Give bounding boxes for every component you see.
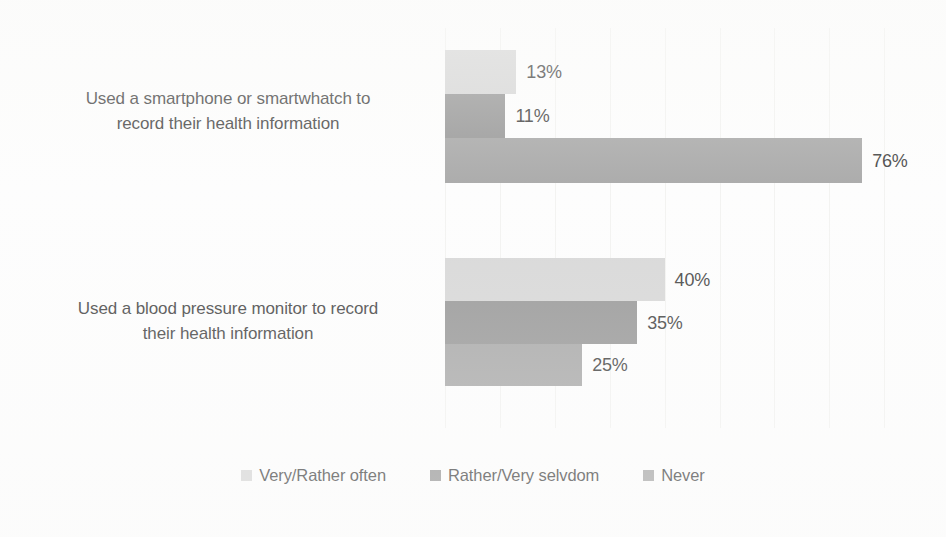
- legend-item[interactable]: Never: [643, 466, 705, 484]
- chart-legend: Very/Rather oftenRather/Very selvdomNeve…: [0, 466, 946, 484]
- gridline: [774, 28, 775, 428]
- category-label-line: record their health information: [38, 111, 418, 136]
- bar-segment: [445, 94, 505, 138]
- bar-segment: [445, 301, 637, 344]
- gridline: [829, 28, 830, 428]
- category-label-line: their health information: [38, 321, 418, 346]
- legend-label: Rather/Very selvdom: [448, 466, 599, 484]
- bar-value-label: 40%: [675, 271, 710, 289]
- category-label-blood-pressure: Used a blood pressure monitor to record …: [38, 296, 418, 346]
- gridline: [884, 28, 885, 428]
- legend-swatch-icon: [241, 470, 252, 481]
- bar-segment: [445, 138, 862, 183]
- bar-segment: [445, 344, 582, 386]
- gridline: [720, 28, 721, 428]
- category-label-smartphone: Used a smartphone or smartwhatch to reco…: [38, 86, 418, 136]
- bar-value-label: 13%: [526, 63, 561, 81]
- legend-swatch-icon: [643, 470, 654, 481]
- bar-chart: Used a smartphone or smartwhatch to reco…: [0, 0, 946, 537]
- legend-label: Very/Rather often: [259, 466, 386, 484]
- legend-item[interactable]: Rather/Very selvdom: [430, 466, 599, 484]
- category-label-line: Used a blood pressure monitor to record: [38, 296, 418, 321]
- legend-item[interactable]: Very/Rather often: [241, 466, 386, 484]
- legend-swatch-icon: [430, 470, 441, 481]
- bar-value-label: 76%: [872, 152, 907, 170]
- bar-value-label: 11%: [515, 107, 549, 125]
- category-label-line: Used a smartphone or smartwhatch to: [38, 86, 418, 111]
- bar-segment: [445, 50, 516, 94]
- bar-value-label: 25%: [592, 356, 627, 374]
- gridline: [665, 28, 666, 428]
- bar-segment: [445, 258, 665, 301]
- legend-label: Never: [661, 466, 705, 484]
- bar-value-label: 35%: [647, 314, 682, 332]
